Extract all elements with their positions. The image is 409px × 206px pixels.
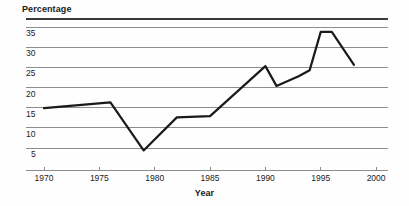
y-tick-label: 5: [31, 149, 36, 159]
data-line-series: [44, 32, 354, 151]
line-chart: Percentage 3530252015105 197019751980198…: [0, 0, 409, 206]
y-tick-label: 15: [26, 109, 35, 119]
x-tick-label: 1990: [245, 173, 285, 183]
y-tick-label: 20: [26, 89, 35, 99]
y-tick-label: 25: [26, 68, 35, 78]
grid-lines: [26, 27, 388, 148]
x-tick-label: 1970: [24, 173, 64, 183]
x-tick-label: 1995: [301, 173, 341, 183]
x-axis-title: Year: [0, 188, 409, 198]
y-tick-label: 35: [26, 28, 35, 38]
x-tick-label: 1980: [135, 173, 175, 183]
x-tick-label: 1975: [79, 173, 119, 183]
x-tick-label: 2000: [356, 173, 396, 183]
y-tick-label: 30: [26, 48, 35, 58]
y-tick-label: 10: [26, 129, 35, 139]
x-tick-label: 1985: [190, 173, 230, 183]
x-axis-ticks: [44, 167, 376, 171]
